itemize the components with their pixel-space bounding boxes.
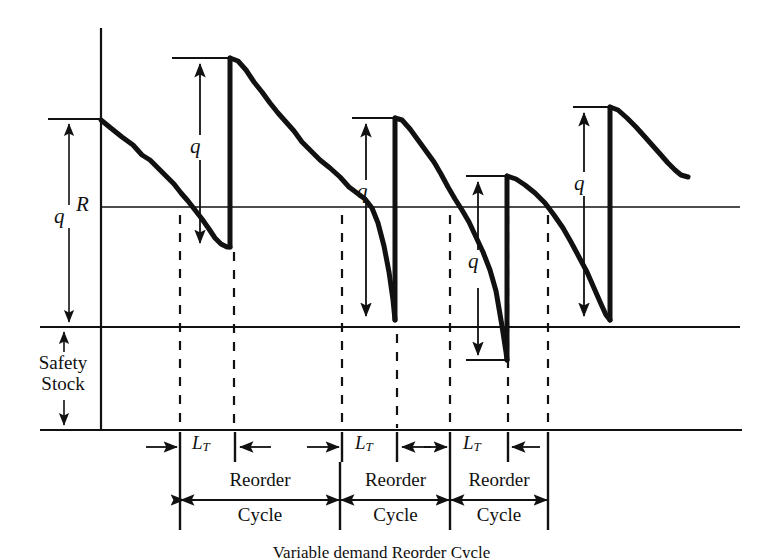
reorder-cycle-label-2: Reorder xyxy=(342,470,449,490)
inventory-level-curve xyxy=(101,58,688,360)
reference-lines-group xyxy=(101,207,740,327)
reorder-cycle-label-2-line2: Cycle xyxy=(342,505,449,525)
q-label-cycle-4: q xyxy=(574,172,585,194)
lead-time-subscript-2: T xyxy=(366,439,373,454)
reorder-cycle-label-3: Reorder xyxy=(450,470,548,490)
safety-stock-label-line-2: Stock xyxy=(41,373,84,394)
lead-time-subscript-1: T xyxy=(203,439,210,454)
safety-stock-label: Safety Stock xyxy=(24,352,102,395)
demand-segment-1 xyxy=(101,120,230,247)
figure-caption: Variable demand Reorder Cycle xyxy=(0,543,763,558)
lead-time-label-2: LT xyxy=(355,433,373,454)
reorder-cycle-label-1-line2: Cycle xyxy=(180,505,340,525)
lead-time-subscript-3: T xyxy=(474,439,481,454)
demand-segment-2 xyxy=(230,58,395,320)
q-label-cycle-1: q xyxy=(190,135,201,157)
demand-segment-4 xyxy=(507,176,610,320)
safety-stock-label-line-1: Safety xyxy=(39,352,88,373)
dashed-guide-lines xyxy=(180,215,548,428)
reorder-cycle-2-line-2: Cycle xyxy=(373,504,417,525)
axis-group xyxy=(101,28,742,430)
reorder-cycle-label-1: Reorder xyxy=(180,470,340,490)
q-label-cycle-3: q xyxy=(468,250,479,272)
lead-time-symbol-2: L xyxy=(355,432,366,453)
reorder-cycle-3-line-1: Reorder xyxy=(468,469,529,490)
q-label-left-axis: q xyxy=(54,205,65,227)
reorder-cycle-3-line-2: Cycle xyxy=(477,504,521,525)
inventory-reorder-cycle-figure: q R Safety Stock q q q q LT LT LT Reorde… xyxy=(0,0,763,558)
reorder-cycle-1-line-2: Cycle xyxy=(238,504,282,525)
q-label-cycle-2: q xyxy=(357,180,368,202)
reorder-cycle-label-3-line2: Cycle xyxy=(450,505,548,525)
lead-time-symbol-3: L xyxy=(463,432,474,453)
lead-time-label-3: LT xyxy=(463,433,481,454)
lead-time-label-1: LT xyxy=(192,433,210,454)
reorder-cycle-1-line-1: Reorder xyxy=(229,469,290,490)
reorder-point-label: R xyxy=(76,193,89,215)
demand-segment-5 xyxy=(610,107,688,177)
lead-time-symbol-1: L xyxy=(192,432,203,453)
reorder-cycle-2-line-1: Reorder xyxy=(365,469,426,490)
